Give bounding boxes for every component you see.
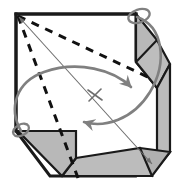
folding-diagram-canvas: Folded square sheet with corner flaps an…: [0, 0, 183, 190]
folding-diagram-figure: Folded square sheet with corner flaps an…: [0, 0, 183, 190]
